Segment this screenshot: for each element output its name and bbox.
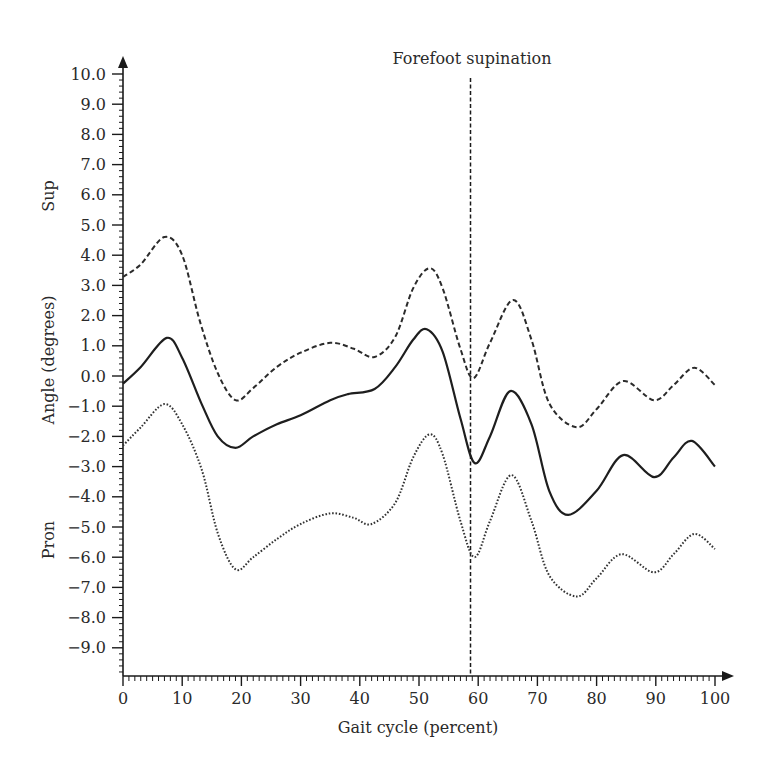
y-axis-title: Angle (degrees) <box>39 295 58 425</box>
y-tick-label: −3.0 <box>67 457 106 476</box>
x-tick-label: 40 <box>350 689 370 708</box>
gait-angle-chart: 10.09.08.07.06.05.04.03.02.01.00.0−1.0−2… <box>0 0 770 781</box>
x-tick-label: 70 <box>527 689 547 708</box>
y-tick-label: 0.0 <box>81 367 106 386</box>
y-axis-ticks <box>112 74 123 672</box>
y-tick-label: 6.0 <box>81 185 106 204</box>
mean-solid-line <box>123 329 715 515</box>
x-tick-label: 100 <box>700 689 731 708</box>
y-axis-arrow-icon <box>118 56 128 68</box>
x-axis-arrow-icon <box>722 671 734 681</box>
x-axis-tick-labels: 0102030405060708090100 <box>118 689 730 708</box>
y-tick-label: 9.0 <box>81 95 106 114</box>
y-tick-label: 5.0 <box>81 216 106 235</box>
y-tick-label: −8.0 <box>67 608 106 627</box>
y-tick-label: 2.0 <box>81 306 106 325</box>
y-axis-pron-label: Pron <box>39 521 58 559</box>
x-tick-label: 60 <box>468 689 488 708</box>
x-tick-label: 80 <box>586 689 606 708</box>
x-tick-label: 10 <box>172 689 192 708</box>
y-tick-label: −9.0 <box>67 638 106 657</box>
y-tick-label: −4.0 <box>67 487 106 506</box>
y-tick-label: 3.0 <box>81 276 106 295</box>
y-tick-label: 7.0 <box>81 155 106 174</box>
x-tick-label: 30 <box>290 689 310 708</box>
y-tick-label: 1.0 <box>81 336 106 355</box>
y-tick-label: −7.0 <box>67 578 106 597</box>
y-tick-label: −1.0 <box>67 397 106 416</box>
y-axis-tick-labels: 10.09.08.07.06.05.04.03.02.01.00.0−1.0−2… <box>67 65 106 658</box>
x-tick-label: 90 <box>646 689 666 708</box>
lower-bound-dotted-line <box>123 404 715 596</box>
x-axis-ticks <box>123 676 715 686</box>
y-tick-label: 8.0 <box>81 125 106 144</box>
y-tick-label: 4.0 <box>81 246 106 265</box>
y-axis-sup-label: Sup <box>39 180 58 212</box>
x-tick-label: 20 <box>231 689 251 708</box>
y-tick-label: 10.0 <box>70 65 106 84</box>
x-tick-label: 50 <box>409 689 429 708</box>
y-tick-label: −2.0 <box>67 427 106 446</box>
forefoot-supination-label: Forefoot supination <box>393 49 552 68</box>
x-axis-title: Gait cycle (percent) <box>338 718 499 737</box>
y-tick-label: −6.0 <box>67 548 106 567</box>
x-tick-label: 0 <box>118 689 128 708</box>
y-tick-label: −5.0 <box>67 518 106 537</box>
